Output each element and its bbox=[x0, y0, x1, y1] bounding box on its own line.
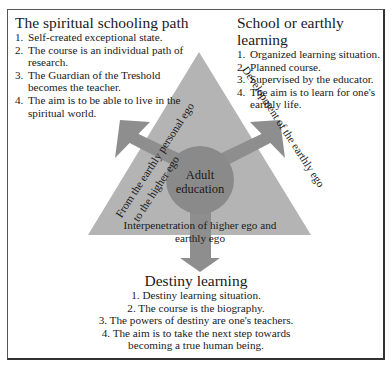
list-item: 3.The Guardian of the Treshold becomes t… bbox=[15, 69, 190, 94]
list-item: 4.The aim is to be able to live in the s… bbox=[15, 94, 190, 119]
spiritual-title: The spiritual schooling path bbox=[15, 14, 190, 31]
spiritual-schooling-block: The spiritual schooling path 1.Self-crea… bbox=[15, 14, 190, 119]
list-item: 4. The aim is to take the next step towa… bbox=[20, 327, 372, 352]
list-item: 2. The course is the biography. bbox=[20, 302, 372, 315]
school-title: School or earthly learning bbox=[237, 14, 387, 48]
destiny-learning-block: Destiny learning 1. Destiny learning sit… bbox=[20, 272, 372, 352]
center-label: Adult education bbox=[166, 168, 234, 196]
down-arrow-label: Interpenetration of higher ego and earth… bbox=[95, 219, 305, 245]
list-item: 2.Planned course. bbox=[237, 61, 387, 74]
destiny-list: 1. Destiny learning situation. 2. The co… bbox=[20, 289, 372, 352]
list-item: 1.Organized learning situation. bbox=[237, 48, 387, 61]
list-item: 2.The course is an individual path of re… bbox=[15, 44, 190, 69]
list-item: 3. The powers of destiny are one's teach… bbox=[20, 314, 372, 327]
list-item: 1. Destiny learning situation. bbox=[20, 289, 372, 302]
list-item: 1.Self-created exceptional state. bbox=[15, 31, 190, 44]
destiny-title: Destiny learning bbox=[20, 272, 372, 289]
spiritual-list: 1.Self-created exceptional state. 2.The … bbox=[15, 31, 190, 119]
